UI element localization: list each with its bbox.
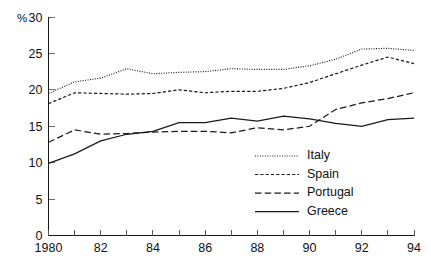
y-tick-label-5: 5 xyxy=(36,193,43,207)
x-axis-group: 198082848688909294 xyxy=(35,230,421,255)
series-line-greece xyxy=(49,116,415,163)
x-tick-group xyxy=(49,230,415,236)
x-tick-label-1986: 86 xyxy=(198,241,212,255)
chart-container: 051015202530 % 198082848688909294 ItalyS… xyxy=(0,0,431,269)
y-tick-label-30: 30 xyxy=(29,11,43,25)
x-tick-label-1988: 88 xyxy=(250,241,264,255)
series-group xyxy=(49,48,415,163)
x-tick-label-group: 198082848688909294 xyxy=(35,241,421,255)
x-tick-label-1990: 90 xyxy=(303,241,317,255)
legend-label-italy: Italy xyxy=(307,148,331,162)
y-tick-label-15: 15 xyxy=(29,120,43,134)
x-tick-label-1984: 84 xyxy=(146,241,160,255)
series-line-portugal xyxy=(49,93,415,143)
x-tick-label-1980: 1980 xyxy=(35,241,63,255)
chart-legend: ItalySpainPortugalGreece xyxy=(255,148,354,218)
y-axis-group: 051015202530 % xyxy=(17,11,55,244)
y-tick-label-10: 10 xyxy=(29,156,43,170)
y-tick-label-25: 25 xyxy=(29,47,43,61)
legend-label-portugal: Portugal xyxy=(307,185,354,199)
y-tick-label-group: 051015202530 xyxy=(29,11,43,244)
x-tick-label-1982: 82 xyxy=(94,241,108,255)
y-tick-group xyxy=(49,17,55,236)
legend-label-spain: Spain xyxy=(307,167,339,181)
line-chart: 051015202530 % 198082848688909294 ItalyS… xyxy=(0,0,431,269)
x-tick-label-1992: 92 xyxy=(355,241,369,255)
legend-label-greece: Greece xyxy=(307,204,348,218)
x-tick-label-1994: 94 xyxy=(407,241,421,255)
series-line-italy xyxy=(49,48,415,93)
y-axis-unit-label: % xyxy=(17,12,27,24)
y-tick-label-20: 20 xyxy=(29,83,43,97)
series-line-spain xyxy=(49,57,415,104)
